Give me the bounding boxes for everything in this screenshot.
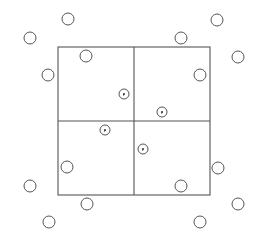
outer-circle [24,32,36,44]
inner-circle [175,180,187,192]
outer-circle [212,162,224,174]
dotted-circle [157,107,167,117]
outer-circle [24,180,36,192]
diagram-canvas [0,0,256,240]
outer-circle [211,14,223,26]
dotted-circle [138,144,148,154]
outer-circle [232,198,244,210]
outer-circle [232,51,244,63]
dotted-circle [119,89,129,99]
inner-circle [194,69,206,81]
outer-circle [81,198,93,210]
dotted-circle [100,125,110,135]
inner-circle [80,50,92,62]
outer-circle [42,69,54,81]
inner-circle [61,161,73,173]
outer-circle [43,216,55,228]
quadrant-grid [58,47,210,195]
outer-circle [194,216,206,228]
outer-circle [62,13,74,25]
outer-circle [175,32,187,44]
